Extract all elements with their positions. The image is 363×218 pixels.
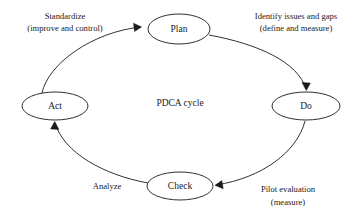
edge-label-act-to-plan-line1: Standardize <box>45 11 86 21</box>
edge-plan-to-do-arrowhead <box>302 83 310 91</box>
edge-label-check-to-act: Analyze <box>93 181 122 191</box>
edge-label-check-to-act-line1: Analyze <box>93 181 122 191</box>
edge-label-act-to-plan: Standardize (improve and control) <box>27 11 103 33</box>
center-label: PDCA cycle <box>156 98 203 108</box>
node-plan-label: Plan <box>171 24 188 34</box>
node-do-label: Do <box>300 101 312 111</box>
edge-act-to-plan-arc <box>42 27 141 93</box>
edge-do-to-check-arc <box>216 121 305 185</box>
node-do[interactable]: Do <box>272 92 340 120</box>
diagram-canvas: Plan Do Check Act PDCA cycle Standardize… <box>0 0 363 218</box>
edge-act-to-plan-arrowhead <box>134 23 142 31</box>
edge-label-plan-to-do-line2: (define and measure) <box>260 23 333 33</box>
node-check-label: Check <box>168 181 193 191</box>
edge-label-act-to-plan-line2: (improve and control) <box>27 23 103 33</box>
edge-check-to-act-arc <box>55 123 148 183</box>
edge-label-do-to-check-line2: (measure) <box>271 197 305 207</box>
edge-label-do-to-check-line1: Pilot evaluation <box>261 184 316 194</box>
edge-label-plan-to-do: Identify issues and gaps (define and mea… <box>255 11 338 33</box>
node-act-label: Act <box>48 101 62 111</box>
edge-label-plan-to-do-line1: Identify issues and gaps <box>255 11 338 21</box>
node-plan[interactable]: Plan <box>148 14 210 44</box>
node-check[interactable]: Check <box>147 172 213 200</box>
edge-check-to-act-arrowhead <box>51 122 59 130</box>
pdca-cycle-diagram: Plan Do Check Act PDCA cycle Standardize… <box>0 0 363 218</box>
edge-label-do-to-check: Pilot evaluation (measure) <box>261 184 316 207</box>
edge-do-to-check-arrowhead <box>215 181 223 189</box>
node-act[interactable]: Act <box>22 92 88 120</box>
edge-plan-to-do-arc <box>209 35 306 89</box>
